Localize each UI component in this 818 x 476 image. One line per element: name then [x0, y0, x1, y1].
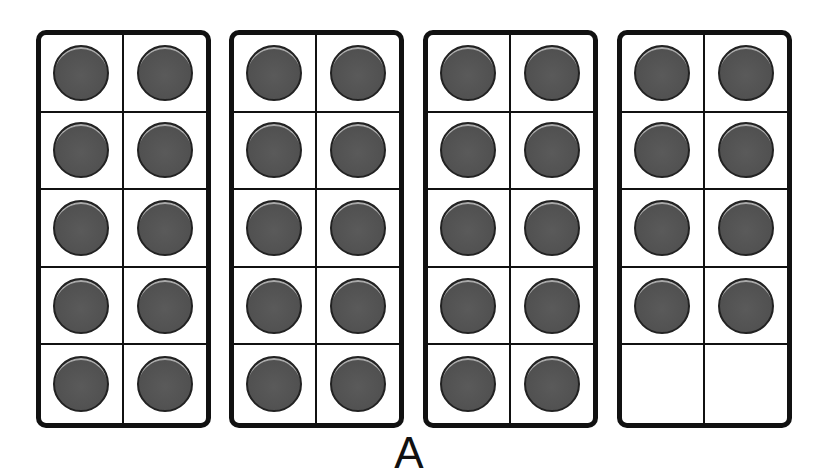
frame-cell: [428, 268, 511, 346]
counter-dot-icon: [718, 278, 774, 334]
frame-cell: [124, 35, 207, 113]
frame-cell: [511, 268, 594, 346]
frame-cell: [428, 35, 511, 113]
frame-cell: [705, 268, 788, 346]
counter-dot-icon: [330, 200, 386, 256]
frame-cell: [317, 345, 400, 423]
counter-dot-icon: [440, 278, 496, 334]
counter-dot-icon: [440, 200, 496, 256]
ten-frame-3: [423, 30, 598, 428]
counter-dot-icon: [137, 278, 193, 334]
counter-dot-icon: [53, 45, 109, 101]
frame-cell: [622, 113, 705, 191]
frame-cell: [234, 268, 317, 346]
counter-dot-icon: [524, 356, 580, 412]
frame-cell: [511, 113, 594, 191]
counter-dot-icon: [137, 122, 193, 178]
counter-dot-icon: [718, 122, 774, 178]
frame-cell: [317, 113, 400, 191]
frame-cell: [317, 190, 400, 268]
counter-dot-icon: [246, 45, 302, 101]
frame-cell: [124, 345, 207, 423]
frame-cell: [511, 190, 594, 268]
ten-frame-4: [617, 30, 792, 428]
frame-cell: [705, 35, 788, 113]
counter-dot-icon: [634, 45, 690, 101]
frame-cell: [41, 113, 124, 191]
frame-cell: [234, 113, 317, 191]
counter-dot-icon: [137, 45, 193, 101]
counter-dot-icon: [246, 200, 302, 256]
frame-cell: [511, 345, 594, 423]
counter-dot-icon: [718, 200, 774, 256]
frame-cell: [317, 268, 400, 346]
frame-cell: [41, 268, 124, 346]
counter-dot-icon: [440, 356, 496, 412]
frame-cell: [41, 35, 124, 113]
counter-dot-icon: [137, 200, 193, 256]
counter-dot-icon: [634, 122, 690, 178]
ten-frame-1: [36, 30, 211, 428]
frame-cell: [622, 190, 705, 268]
counter-dot-icon: [634, 278, 690, 334]
counter-dot-icon: [53, 356, 109, 412]
counter-dot-icon: [524, 278, 580, 334]
counter-dot-icon: [330, 45, 386, 101]
frame-cell: [622, 35, 705, 113]
frame-cell: [428, 190, 511, 268]
counter-dot-icon: [330, 278, 386, 334]
counter-dot-icon: [246, 278, 302, 334]
frame-cell: [234, 190, 317, 268]
answer-label: A: [0, 430, 818, 476]
counter-dot-icon: [330, 122, 386, 178]
counter-dot-icon: [440, 45, 496, 101]
frame-cell: [511, 35, 594, 113]
frame-cell: [705, 345, 788, 423]
counter-dot-icon: [246, 356, 302, 412]
counter-dot-icon: [246, 122, 302, 178]
counter-dot-icon: [440, 122, 496, 178]
counter-dot-icon: [634, 200, 690, 256]
counter-dot-icon: [718, 45, 774, 101]
counter-dot-icon: [524, 122, 580, 178]
counter-dot-icon: [330, 356, 386, 412]
frame-cell: [428, 113, 511, 191]
frame-cell: [41, 190, 124, 268]
counter-dot-icon: [53, 200, 109, 256]
counter-dot-icon: [53, 122, 109, 178]
frame-cell: [622, 345, 705, 423]
frame-cell: [124, 268, 207, 346]
frame-cell: [41, 345, 124, 423]
counter-dot-icon: [53, 278, 109, 334]
counter-dot-icon: [137, 356, 193, 412]
frame-cell: [317, 35, 400, 113]
ten-frame-2: [229, 30, 404, 428]
frame-cell: [234, 35, 317, 113]
frame-cell: [234, 345, 317, 423]
frame-cell: [428, 345, 511, 423]
frame-cell: [124, 113, 207, 191]
counter-dot-icon: [524, 200, 580, 256]
counter-dot-icon: [524, 45, 580, 101]
frame-cell: [124, 190, 207, 268]
frame-cell: [622, 268, 705, 346]
frame-cell: [705, 113, 788, 191]
frame-cell: [705, 190, 788, 268]
